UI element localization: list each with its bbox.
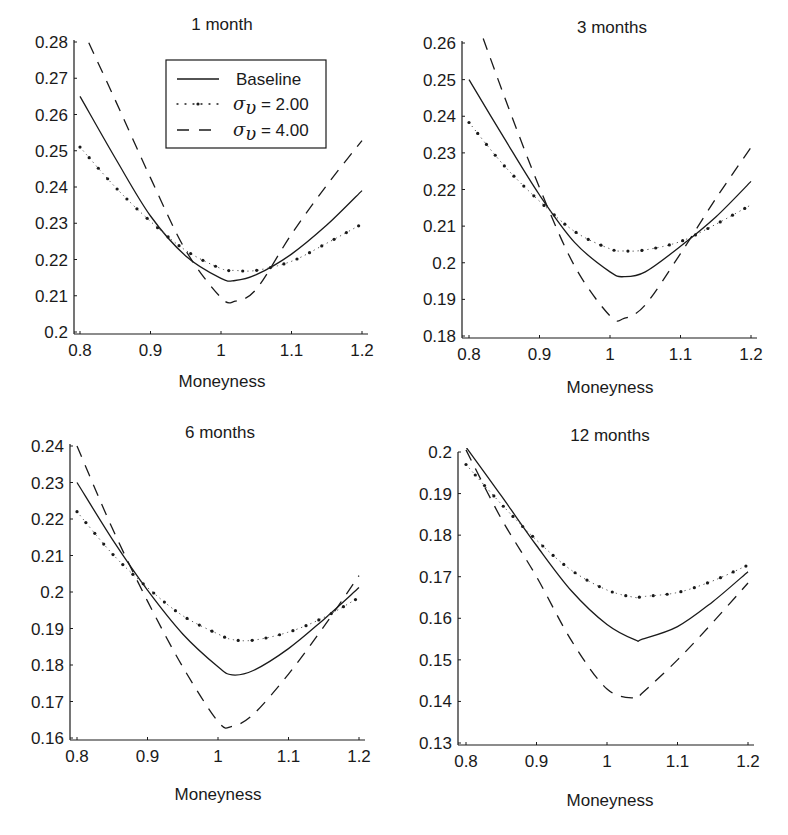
series-marker bbox=[732, 570, 735, 573]
x-tick-label: 0.9 bbox=[525, 752, 549, 771]
series-dotted bbox=[80, 147, 362, 271]
y-tick-label: 0.21 bbox=[423, 217, 456, 236]
y-tick-label: 0.19 bbox=[31, 620, 64, 639]
series-dashed bbox=[466, 450, 748, 699]
y-tick-label: 0.24 bbox=[31, 437, 64, 456]
x-tick-label: 1 bbox=[213, 747, 222, 766]
series-solid bbox=[466, 447, 748, 641]
series-marker bbox=[88, 156, 91, 159]
series-marker bbox=[743, 207, 746, 210]
series-marker bbox=[93, 532, 96, 535]
series-marker bbox=[269, 266, 272, 269]
series-marker bbox=[342, 605, 345, 608]
series-solid bbox=[469, 80, 751, 277]
series-marker bbox=[624, 594, 627, 597]
y-tick-label: 0.18 bbox=[31, 656, 64, 675]
series-marker bbox=[111, 553, 114, 556]
x-tick-label: 0.8 bbox=[68, 341, 92, 360]
y-tick-label: 0.2 bbox=[44, 323, 68, 342]
series-marker bbox=[163, 600, 166, 603]
series-marker bbox=[573, 571, 576, 574]
series-marker bbox=[146, 217, 149, 220]
series-marker bbox=[522, 184, 525, 187]
plot-area: 0.80.911.11.20.160.170.180.190.20.210.22… bbox=[31, 437, 371, 766]
x-tick-label: 1.2 bbox=[350, 341, 374, 360]
volatility-smile-figure: 1 month 0.80.911.11.20.20.210.220.230.24… bbox=[0, 0, 788, 835]
series-marker bbox=[719, 576, 722, 579]
series-marker bbox=[626, 250, 629, 253]
series-marker bbox=[198, 624, 201, 627]
series-marker bbox=[255, 269, 258, 272]
series-marker bbox=[295, 257, 298, 260]
series-solid bbox=[77, 483, 359, 676]
series-marker bbox=[681, 239, 684, 242]
series-marker bbox=[542, 204, 545, 207]
series-marker bbox=[531, 535, 534, 538]
series-marker bbox=[562, 563, 565, 566]
series-marker bbox=[541, 544, 544, 547]
y-tick-label: 0.23 bbox=[35, 214, 68, 233]
y-tick-label: 0.26 bbox=[35, 106, 68, 125]
series-marker bbox=[474, 473, 477, 476]
series-marker bbox=[142, 582, 145, 585]
series-marker bbox=[251, 639, 254, 642]
y-tick-label: 0.27 bbox=[35, 69, 68, 88]
y-tick-label: 0.2 bbox=[40, 583, 64, 602]
y-tick-label: 0.19 bbox=[423, 290, 456, 309]
series-marker bbox=[666, 593, 669, 596]
x-tick-label: 1.1 bbox=[666, 752, 690, 771]
x-tick-label: 0.9 bbox=[528, 345, 552, 364]
legend-sigma2-marker bbox=[196, 102, 199, 105]
series-marker bbox=[189, 252, 192, 255]
series-marker bbox=[156, 226, 159, 229]
series-marker bbox=[174, 609, 177, 612]
series-marker bbox=[464, 463, 467, 466]
series-marker bbox=[694, 233, 697, 236]
series-marker bbox=[177, 244, 180, 247]
series-marker bbox=[116, 187, 119, 190]
y-tick-label: 0.15 bbox=[419, 651, 452, 670]
plot-area: 0.80.911.11.20.180.190.20.210.220.230.24… bbox=[423, 0, 763, 364]
x-axis-label: Moneyness bbox=[567, 378, 654, 397]
y-tick-label: 0.14 bbox=[419, 692, 452, 711]
series-marker bbox=[598, 585, 601, 588]
series-marker bbox=[494, 154, 497, 157]
y-tick-label: 0.21 bbox=[35, 287, 68, 306]
series-marker bbox=[330, 612, 333, 615]
series-marker bbox=[304, 624, 307, 627]
series-marker bbox=[668, 243, 671, 246]
y-tick-label: 0.17 bbox=[31, 693, 64, 712]
panel-title: 12 months bbox=[570, 426, 649, 445]
x-tick-label: 1.1 bbox=[277, 747, 301, 766]
panel-title: 1 month bbox=[191, 15, 252, 34]
x-tick-label: 1 bbox=[602, 752, 611, 771]
y-tick-label: 0.22 bbox=[423, 181, 456, 200]
y-tick-label: 0.13 bbox=[419, 734, 452, 753]
x-axis-label: Moneyness bbox=[175, 785, 262, 804]
y-tick-label: 0.18 bbox=[423, 327, 456, 346]
series-marker bbox=[102, 542, 105, 545]
series-marker bbox=[278, 633, 281, 636]
series-marker bbox=[291, 629, 294, 632]
series-marker bbox=[585, 579, 588, 582]
x-tick-label: 1.2 bbox=[739, 345, 763, 364]
series-marker bbox=[106, 177, 109, 180]
series-marker bbox=[476, 132, 479, 135]
series-marker bbox=[574, 231, 577, 234]
legend: Baseline συ = 2.00 συ = 4.00 bbox=[166, 60, 326, 148]
series-marker bbox=[308, 251, 311, 254]
y-tick-label: 0.16 bbox=[31, 729, 64, 748]
y-tick-label: 0.22 bbox=[35, 251, 68, 270]
series-marker bbox=[345, 231, 348, 234]
series-marker bbox=[357, 224, 360, 227]
series-marker bbox=[84, 521, 87, 524]
panel-1-month: 1 month 0.80.911.11.20.20.210.220.230.24… bbox=[35, 15, 374, 391]
panel-title: 3 months bbox=[577, 18, 647, 37]
series-marker bbox=[563, 223, 566, 226]
y-tick-label: 0.16 bbox=[419, 609, 452, 628]
y-tick-label: 0.25 bbox=[35, 142, 68, 161]
series-marker bbox=[264, 636, 267, 639]
x-tick-label: 0.8 bbox=[454, 752, 478, 771]
y-tick-label: 0.23 bbox=[423, 144, 456, 163]
series-marker bbox=[78, 146, 81, 149]
